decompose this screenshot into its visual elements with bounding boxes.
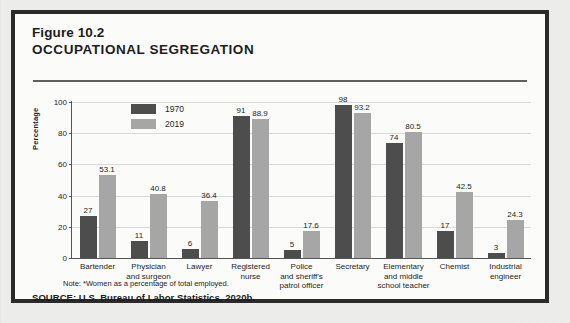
- bar-value-label: 5: [290, 240, 294, 249]
- bar-2019[interactable]: 24.3: [507, 220, 524, 258]
- x-axis-category-label: Lawyer: [187, 262, 213, 272]
- x-axis-tick-label: patrol officer: [280, 281, 324, 291]
- x-axis-tick-label: Secretary: [335, 262, 369, 272]
- bar-group: 2753.1Bartender: [72, 102, 123, 258]
- chart-legend: 19702019: [131, 103, 223, 133]
- x-axis-tick-label: engineer: [489, 272, 521, 282]
- figure-number: Figure 10.2: [32, 25, 512, 40]
- bar-2019[interactable]: 40.8: [150, 194, 167, 258]
- x-axis-category-label: Secretary: [335, 262, 369, 272]
- bar-1970[interactable]: 91: [233, 116, 250, 258]
- chart-source: SOURCE: U.S. Bureau of Labor Statistics,…: [32, 292, 255, 303]
- bar-1970[interactable]: 17: [437, 231, 454, 258]
- bar-value-label: 88.9: [252, 109, 268, 118]
- x-axis-category-label: Policeand sheriff'spatrol officer: [280, 262, 324, 291]
- bar-group: 517.6Policeand sheriff'spatrol officer: [276, 102, 327, 258]
- bar-2019[interactable]: 53.1: [99, 175, 116, 258]
- bar-2019[interactable]: 88.9: [252, 119, 269, 258]
- x-axis-category-label: Bartender: [80, 262, 115, 272]
- bar-group: 324.3Industrialengineer: [480, 102, 531, 258]
- bar-value-label: 17.6: [303, 221, 319, 230]
- figure-frame: Figure 10.2 OCCUPATIONAL SEGREGATION Per…: [11, 10, 549, 303]
- figure-page: Figure 10.2 OCCUPATIONAL SEGREGATION Per…: [0, 0, 570, 323]
- chart-note: Note: *Women as a percentage of total em…: [63, 279, 229, 288]
- page-title: OCCUPATIONAL SEGREGATION: [32, 41, 512, 58]
- x-axis-line: [71, 258, 531, 259]
- x-axis-tick-label: Chemist: [440, 262, 469, 272]
- legend-item-2019[interactable]: 2019: [131, 118, 223, 130]
- bar-2019[interactable]: 17.6: [303, 231, 320, 258]
- bar-1970[interactable]: 11: [131, 241, 148, 258]
- bar-group: 9893.2Secretary: [327, 102, 378, 258]
- bar-2019[interactable]: 36.4: [201, 201, 218, 258]
- x-axis-tick-label: Elementary: [377, 262, 429, 272]
- x-axis-category-label: Registerednurse: [231, 262, 270, 281]
- legend-swatch-icon: [131, 104, 156, 114]
- y-axis-tick-label: 40: [41, 191, 67, 200]
- figure-panel: Figure 10.2 OCCUPATIONAL SEGREGATION Per…: [15, 14, 545, 299]
- bar-value-label: 93.2: [354, 103, 370, 112]
- bar-value-label: 53.1: [99, 165, 115, 174]
- title-block: Figure 10.2 OCCUPATIONAL SEGREGATION: [32, 25, 512, 58]
- bar-value-label: 24.3: [507, 210, 523, 219]
- title-divider: [33, 80, 527, 82]
- bar-value-label: 17: [441, 221, 450, 230]
- legend-label: 2019: [165, 119, 184, 129]
- x-axis-tick-label: Lawyer: [187, 262, 213, 272]
- y-axis-tick-label: 20: [41, 222, 67, 231]
- y-axis-tick-label: 60: [41, 160, 67, 169]
- bar-1970[interactable]: 5: [284, 250, 301, 258]
- bar-1970[interactable]: 74: [386, 143, 403, 258]
- bar-value-label: 42.5: [456, 182, 472, 191]
- x-axis-tick-label: Industrial: [489, 262, 521, 272]
- x-axis-tick-label: school teacher: [377, 281, 429, 291]
- x-axis-tick-label: Registered: [231, 262, 270, 272]
- bar-2019[interactable]: 80.5: [405, 132, 422, 258]
- y-axis-tick-label: 0: [41, 254, 67, 263]
- y-axis-label: Percentage: [31, 138, 40, 150]
- x-axis-tick-label: and sheriff's: [280, 272, 324, 282]
- bar-value-label: 36.4: [201, 191, 217, 200]
- bar-value-label: 74: [390, 133, 399, 142]
- bar-1970[interactable]: 3: [488, 253, 505, 258]
- y-axis-tick-label: 80: [41, 129, 67, 138]
- bar-group: 7480.5Elementaryand middleschool teacher: [378, 102, 429, 258]
- bar-value-label: 3: [494, 243, 498, 252]
- bar-value-label: 6: [188, 239, 192, 248]
- bar-value-label: 27: [84, 206, 93, 215]
- x-axis-category-label: Industrialengineer: [489, 262, 521, 281]
- bar-2019[interactable]: 42.5: [456, 192, 473, 258]
- bar-value-label: 98: [339, 95, 348, 104]
- bar-1970[interactable]: 6: [182, 249, 199, 258]
- bar-group: 9188.9Registerednurse: [225, 102, 276, 258]
- bar-value-label: 40.8: [150, 184, 166, 193]
- bar-2019[interactable]: 93.2: [354, 113, 371, 258]
- bar-value-label: 91: [237, 106, 246, 115]
- x-axis-tick-label: Physician: [126, 262, 170, 272]
- x-axis-tick-label: Police: [280, 262, 324, 272]
- legend-label: 1970: [165, 104, 184, 114]
- bar-group: 1742.5Chemist: [429, 102, 480, 258]
- legend-item-1970[interactable]: 1970: [131, 103, 223, 115]
- x-axis-tick-label: and middle: [377, 272, 429, 282]
- bar-chart: Percentage 020406080100 2753.1Bartender1…: [33, 90, 533, 270]
- y-axis-tick-label: 100: [41, 98, 67, 107]
- y-axis-tick-mark: [69, 258, 72, 259]
- bar-value-label: 80.5: [405, 122, 421, 131]
- x-axis-category-label: Chemist: [440, 262, 469, 272]
- x-axis-tick-label: nurse: [231, 272, 270, 282]
- bar-1970[interactable]: 27: [80, 216, 97, 258]
- x-axis-tick-label: Bartender: [80, 262, 115, 272]
- legend-swatch-icon: [131, 119, 156, 129]
- bar-1970[interactable]: 98: [335, 105, 352, 258]
- bar-value-label: 11: [135, 231, 143, 240]
- x-axis-category-label: Elementaryand middleschool teacher: [377, 262, 429, 291]
